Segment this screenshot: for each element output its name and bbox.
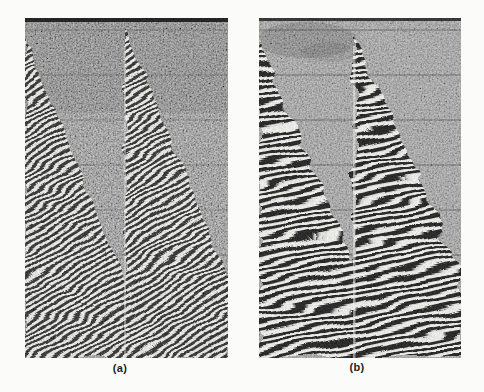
seismic-image-b [259,18,461,358]
panel-b-grain-overlay-top [259,18,461,358]
panel-a-grain-overlay-top [25,18,228,358]
panel-a-top-border [25,18,228,22]
seismic-image-a [25,18,228,358]
panel-b [259,18,461,358]
panel-a [25,18,228,358]
panel-b-label: (b) [333,360,381,374]
figure-two-seismic-panels: (a) (b) [0,0,484,392]
panel-a-label: (a) [96,361,144,375]
panel-b-top-border [259,18,461,21]
